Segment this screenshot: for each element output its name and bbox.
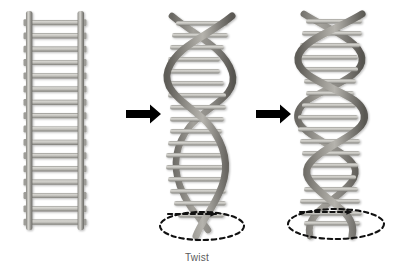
ladder-rail-left — [26, 11, 32, 230]
ladder-rung — [28, 113, 82, 118]
twist-diagram-figure — [0, 0, 394, 276]
ladder-rung — [28, 166, 82, 171]
ladder-rung — [28, 140, 82, 145]
ladder-rung — [28, 153, 82, 158]
ladder-rung — [28, 87, 82, 92]
ladder-rung — [28, 206, 82, 211]
ladder-rail-right — [78, 11, 84, 230]
ladder-rung — [28, 60, 82, 65]
ladder-rung — [28, 193, 82, 198]
ladder-rung — [28, 100, 82, 105]
ladder-rung — [28, 47, 82, 52]
ladder-rung — [28, 20, 82, 25]
diagram-canvas — [0, 0, 394, 276]
caption-twist: Twist — [0, 252, 394, 263]
ladder-rung — [28, 126, 82, 131]
ladder-rung — [28, 33, 82, 38]
ladder-rung — [28, 220, 82, 225]
ladder-rung — [28, 73, 82, 78]
ladder-rung — [28, 180, 82, 185]
